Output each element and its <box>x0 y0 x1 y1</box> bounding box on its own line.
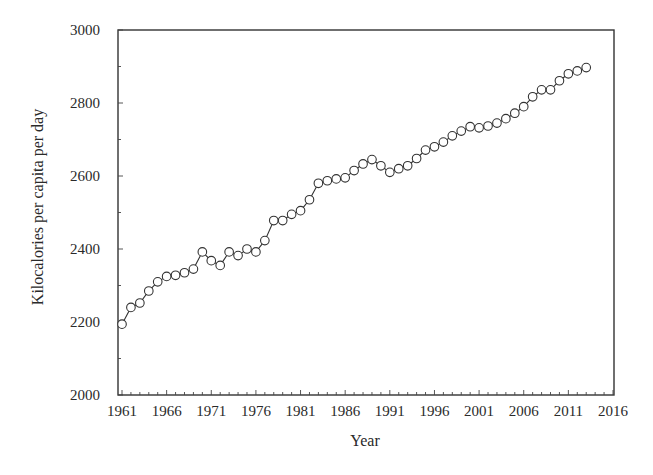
data-point-marker <box>359 160 368 169</box>
data-point-marker <box>171 271 180 280</box>
data-point-marker <box>573 67 582 76</box>
data-point-marker <box>153 278 162 287</box>
x-tick-label: 1991 <box>375 403 405 419</box>
series-polyline <box>122 68 586 325</box>
x-tick-label: 1986 <box>330 403 361 419</box>
data-point-marker <box>368 155 377 164</box>
data-point-marker <box>332 175 341 184</box>
data-point-marker <box>502 114 511 123</box>
data-point-marker <box>350 166 359 175</box>
data-point-marker <box>448 132 457 141</box>
x-tick-label: 2016 <box>598 403 629 419</box>
data-point-marker <box>484 122 493 131</box>
y-tick-label: 2400 <box>70 241 100 257</box>
data-point-marker <box>127 303 136 312</box>
data-point-marker <box>377 161 386 170</box>
data-point-marker <box>261 236 270 245</box>
data-point-marker <box>439 138 448 147</box>
data-point-marker <box>278 216 287 225</box>
plot-border <box>118 30 614 395</box>
data-point-marker <box>555 76 564 85</box>
y-tick-label: 2000 <box>70 387 100 403</box>
data-point-marker <box>421 146 430 155</box>
x-tick-label: 1976 <box>241 403 272 419</box>
x-tick-label: 2006 <box>509 403 540 419</box>
x-tick-label: 1981 <box>286 403 316 419</box>
data-point-marker <box>412 154 421 163</box>
y-tick-label: 2600 <box>70 168 100 184</box>
data-point-marker <box>394 164 403 173</box>
data-series-markers <box>118 63 591 328</box>
data-series-line <box>122 68 586 325</box>
plot-frame <box>118 30 614 395</box>
data-point-marker <box>528 92 537 101</box>
data-point-marker <box>305 195 314 204</box>
data-point-marker <box>216 261 225 270</box>
data-point-marker <box>198 248 207 257</box>
data-point-marker <box>323 176 332 185</box>
data-point-marker <box>162 272 171 281</box>
data-point-marker <box>287 210 296 219</box>
data-point-marker <box>403 161 412 170</box>
data-point-marker <box>493 119 502 128</box>
data-point-marker <box>386 168 395 177</box>
data-point-marker <box>314 179 323 188</box>
y-tick-label: 3000 <box>70 22 100 38</box>
data-point-marker <box>519 102 528 111</box>
data-point-marker <box>582 63 591 72</box>
x-axis-title: Year <box>350 432 380 449</box>
data-point-marker <box>466 122 475 131</box>
data-point-marker <box>537 86 546 95</box>
data-point-marker <box>243 245 252 254</box>
x-tick-label: 1996 <box>419 403 450 419</box>
data-point-marker <box>546 86 555 95</box>
data-point-marker <box>234 251 243 260</box>
x-tick-label: 2011 <box>554 403 583 419</box>
y-axis-title: Kilocalories per capita per day <box>29 109 47 305</box>
data-point-marker <box>144 287 153 296</box>
data-point-marker <box>225 248 234 257</box>
data-point-marker <box>118 320 127 329</box>
data-point-marker <box>564 70 573 79</box>
y-axis-ticks: 200022002400260028003000 <box>70 22 123 403</box>
data-point-marker <box>457 127 466 136</box>
data-point-marker <box>296 206 305 215</box>
data-point-marker <box>252 248 261 257</box>
line-chart: 1961196619711976198119861991199620012006… <box>0 0 653 475</box>
x-tick-label: 1966 <box>152 403 183 419</box>
data-point-marker <box>341 174 350 183</box>
data-point-marker <box>475 124 484 133</box>
data-point-marker <box>430 143 439 152</box>
data-point-marker <box>189 265 198 274</box>
x-tick-label: 2001 <box>464 403 494 419</box>
data-point-marker <box>136 299 145 308</box>
x-tick-label: 1961 <box>107 403 137 419</box>
x-tick-label: 1971 <box>196 403 226 419</box>
data-point-marker <box>269 216 278 225</box>
data-point-marker <box>511 109 520 118</box>
data-point-marker <box>207 256 216 265</box>
y-tick-label: 2800 <box>70 95 100 111</box>
y-tick-label: 2200 <box>70 314 100 330</box>
data-point-marker <box>180 268 189 277</box>
